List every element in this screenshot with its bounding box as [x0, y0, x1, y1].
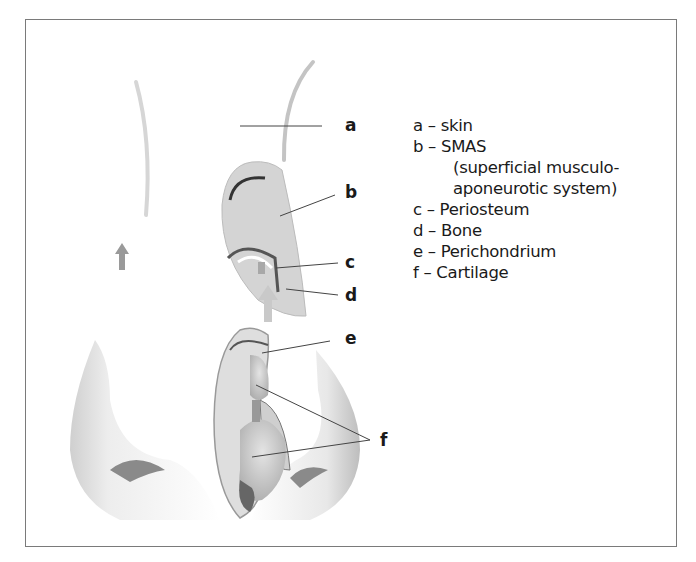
legend-item-b: b – SMAS	[413, 136, 619, 157]
nose-right-contour	[284, 62, 313, 160]
legend-item-b-cont2: aponeurotic system)	[413, 178, 619, 199]
label-e: e	[345, 330, 357, 347]
legend-item-d: d – Bone	[413, 220, 619, 241]
arrow-left-icon	[115, 243, 129, 270]
label-c: c	[345, 254, 355, 271]
legend: a – skin b – SMAS (superficial musculo- …	[413, 115, 619, 283]
legend-item-a: a – skin	[413, 115, 619, 136]
legend-item-b-cont1: (superficial musculo-	[413, 157, 619, 178]
legend-item-c: c – Periosteum	[413, 199, 619, 220]
label-a: a	[345, 117, 356, 134]
label-d: d	[345, 287, 357, 304]
legend-item-f: f – Cartilage	[413, 262, 619, 283]
nose-left-contour	[136, 82, 148, 215]
left-ala	[70, 340, 220, 520]
label-b: b	[345, 184, 357, 201]
arrow-small-icon	[252, 400, 260, 422]
legend-item-e: e – Perichondrium	[413, 241, 619, 262]
label-f: f	[380, 432, 387, 449]
